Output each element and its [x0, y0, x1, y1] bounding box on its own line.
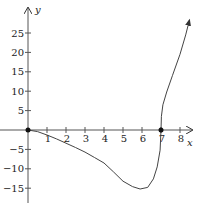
x-tick-label: 3	[83, 133, 89, 144]
x-axis-label: x	[187, 137, 193, 148]
y-tick-label: 15	[11, 66, 24, 77]
y-tick-label: 20	[11, 47, 24, 58]
marked-point	[159, 128, 164, 133]
y-tick-label: −15	[3, 183, 24, 194]
y-tick-label: 5	[18, 105, 24, 116]
marked-point	[26, 128, 31, 133]
y-tick-label: 25	[11, 28, 24, 39]
x-tick-label: 4	[102, 133, 108, 144]
y-axis-label: y	[34, 4, 41, 15]
function-plot: 12345678 252015105−5−10−15 x y	[0, 0, 199, 204]
x-tick-label: 6	[140, 133, 146, 144]
y-tick-label: −5	[9, 144, 24, 155]
x-tick-label: 8	[178, 133, 184, 144]
x-tick-label: 5	[121, 133, 127, 144]
y-tick-label: −10	[3, 163, 24, 174]
y-tick-label: 10	[11, 86, 24, 97]
function-curve	[28, 20, 190, 189]
y-ticks: 252015105−5−10−15	[3, 28, 31, 194]
x-tick-label: 7	[159, 133, 165, 144]
